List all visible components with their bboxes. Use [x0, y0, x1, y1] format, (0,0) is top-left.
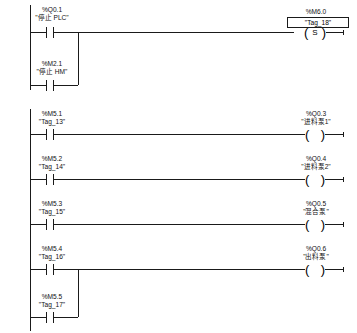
- contact-bar-left: [46, 80, 47, 91]
- rung-2-wire-in: [30, 134, 46, 135]
- contact-address: %M5.2: [22, 155, 82, 163]
- contact-name: "Tag_17": [22, 301, 82, 309]
- contact-name: "Tag_15": [22, 208, 82, 216]
- coil-address: %Q0.3: [286, 110, 346, 118]
- contact-address: %M5.3: [22, 200, 82, 208]
- coil-label-q0-4: %Q0.4 "进料泵2": [286, 155, 346, 171]
- contact-name: "停止 HM": [22, 68, 82, 76]
- coil-address-m6-0: %M6.0: [285, 8, 347, 16]
- branch-2-wire-out: [54, 317, 78, 318]
- rung-5-main-run: [78, 269, 305, 270]
- contact-bar-left: [46, 27, 47, 38]
- coil-address: %Q0.5: [286, 200, 346, 208]
- branch-1-wire-in: [30, 85, 46, 86]
- contact-m2-1[interactable]: [46, 80, 54, 91]
- contact-name: "Tag_14": [22, 163, 82, 171]
- contact-address: %M5.1: [22, 110, 82, 118]
- coil-address: %Q0.6: [286, 245, 346, 253]
- contact-name: "Tag_16": [22, 253, 82, 261]
- contact-m5-2[interactable]: [46, 174, 54, 185]
- output-coil-q0-4[interactable]: ( ): [305, 173, 325, 186]
- contact-m5-5[interactable]: [46, 312, 54, 323]
- rung-2-main-run: [54, 134, 305, 135]
- contact-bar-left: [46, 264, 47, 275]
- contact-address: %Q0.1: [22, 6, 82, 14]
- coil-name: "进料泵1": [286, 118, 346, 126]
- contact-address: %M5.5: [22, 293, 82, 301]
- branch-2-connector: [78, 269, 79, 317]
- rung-1-wire-out: [54, 32, 78, 33]
- output-coil-q0-5[interactable]: ( ): [305, 218, 325, 231]
- coil-name: "出料泵": [286, 253, 346, 261]
- set-coil-m6-0[interactable]: ( S ): [304, 26, 326, 39]
- branch-1-wire-out: [54, 85, 78, 86]
- contact-label-m5-2: %M5.2 "Tag_14": [22, 155, 82, 171]
- branch-1-connector: [78, 32, 79, 85]
- rung-5-right-endcap: [343, 267, 344, 272]
- contact-name: "Tag_13": [22, 118, 82, 126]
- contact-label-q0-1: %Q0.1 "停止 PLC": [22, 6, 82, 22]
- ladder-diagram: %Q0.1 "停止 PLC" %M2.1 "停止 HM" %M6.0: [0, 0, 357, 333]
- rung-4-main-run: [54, 224, 305, 225]
- coil-name: "混合泵": [286, 208, 346, 216]
- rung-1-right-endcap: [343, 30, 344, 35]
- coil-paren-left: (: [305, 128, 309, 141]
- coil-label-q0-5: %Q0.5 "混合泵": [286, 200, 346, 216]
- rung-1-wire-in: [30, 32, 46, 33]
- contact-m5-3[interactable]: [46, 219, 54, 230]
- coil-paren-left: (: [305, 173, 309, 186]
- rung-3-coil-tail: [325, 179, 343, 180]
- contact-address: %M2.1: [22, 60, 82, 68]
- contact-bar-left: [46, 174, 47, 185]
- rung-4-right-endcap: [343, 222, 344, 227]
- contact-bar-left: [46, 129, 47, 140]
- rung-2-coil-tail: [325, 134, 343, 135]
- rung-4-coil-tail: [325, 224, 343, 225]
- contact-label-m5-5: %M5.5 "Tag_17": [22, 293, 82, 309]
- branch-2-wire-in: [30, 317, 46, 318]
- contact-bar-left: [46, 312, 47, 323]
- contact-m5-1[interactable]: [46, 129, 54, 140]
- output-coil-q0-3[interactable]: ( ): [305, 128, 325, 141]
- network-2[interactable]: %M5.1 "Tag_13" %Q0.3 "进料泵1" ( ) %M5.2 "T…: [0, 107, 357, 333]
- network-1[interactable]: %Q0.1 "停止 PLC" %M2.1 "停止 HM" %M6.0: [0, 0, 357, 95]
- rung-5-wire-in: [30, 269, 46, 270]
- contact-q0-1[interactable]: [46, 27, 54, 38]
- rung-3-main-run: [54, 179, 305, 180]
- contact-m5-4[interactable]: [46, 264, 54, 275]
- coil-address: %M6.0: [285, 8, 347, 16]
- contact-name: "停止 PLC": [22, 14, 82, 22]
- contact-label-m5-4: %M5.4 "Tag_16": [22, 245, 82, 261]
- rung-2-right-endcap: [343, 132, 344, 137]
- rung-5-coil-tail: [325, 269, 343, 270]
- coil-label-q0-3: %Q0.3 "进料泵1": [286, 110, 346, 126]
- coil-name: "进料泵2": [286, 163, 346, 171]
- contact-bar-left: [46, 219, 47, 230]
- contact-label-m5-3: %M5.3 "Tag_15": [22, 200, 82, 216]
- contact-label-m5-1: %M5.1 "Tag_13": [22, 110, 82, 126]
- coil-label-q0-6: %Q0.6 "出料泵": [286, 245, 346, 261]
- coil-address: %Q0.4: [286, 155, 346, 163]
- rung-4-wire-in: [30, 224, 46, 225]
- rung-3-right-endcap: [343, 177, 344, 182]
- rung-5-wire-mid: [54, 269, 78, 270]
- rung-1-main-run: [78, 32, 294, 33]
- contact-label-m2-1: %M2.1 "停止 HM": [22, 60, 82, 76]
- coil-paren-left: (: [305, 218, 309, 231]
- contact-address: %M5.4: [22, 245, 82, 253]
- rung-1-coil-tail: [326, 32, 343, 33]
- rung-3-wire-in: [30, 179, 46, 180]
- coil-paren-left: (: [305, 263, 309, 276]
- output-coil-q0-6[interactable]: ( ): [305, 263, 325, 276]
